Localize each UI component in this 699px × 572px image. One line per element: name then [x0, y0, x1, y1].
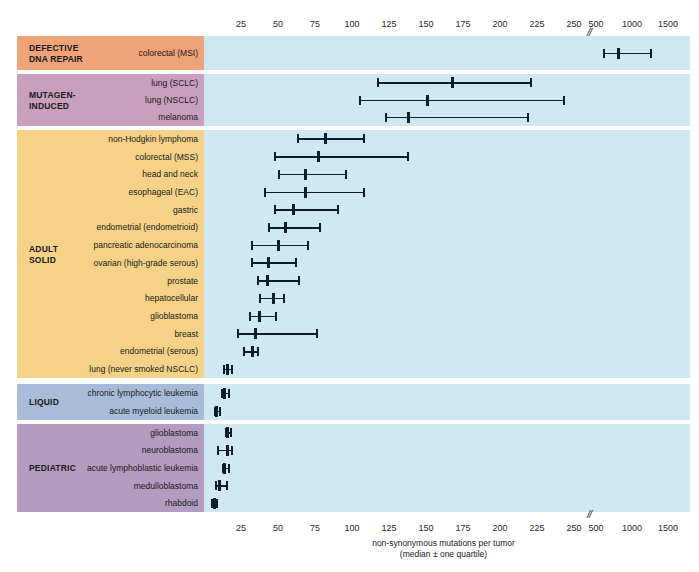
error-bar-cap-upper	[407, 152, 409, 161]
median-marker	[226, 445, 229, 456]
cancer-type-row: acute myeloid leukemia	[17, 403, 690, 419]
error-bar-cap-upper	[257, 347, 259, 356]
cancer-type-row: prostate	[17, 273, 690, 289]
error-bar-cap-lower	[385, 113, 387, 122]
cancer-type-row: medulloblastoma	[17, 478, 690, 494]
error-bar-marker	[204, 131, 690, 147]
axis-tick-150: 150	[418, 16, 433, 32]
cancer-type-label: gastric	[17, 202, 198, 218]
error-bar-marker	[204, 255, 690, 271]
error-bar-cap-lower	[268, 223, 270, 232]
error-bar-cap-upper	[337, 205, 339, 214]
cancer-type-row: breast	[17, 326, 690, 342]
axis-tick-175: 175	[455, 520, 470, 536]
cancer-type-label: acute lymphoblastic leukemia	[17, 460, 198, 476]
group-band: MUTAGEN- INDUCEDlung (SCLC)lung (NSCLC)m…	[17, 74, 690, 126]
axis-tick-1000: 1000	[622, 520, 642, 536]
error-bar-marker	[204, 361, 690, 377]
cancer-type-label: lung (SCLC)	[17, 75, 198, 91]
axis-tick-25: 25	[236, 16, 246, 32]
error-bar-cap-lower	[264, 188, 266, 197]
cancer-type-label: non-Hodgkin lymphoma	[17, 131, 198, 147]
axis-tick-225: 225	[529, 16, 544, 32]
cancer-type-label: acute myeloid leukemia	[17, 403, 198, 419]
median-marker	[267, 257, 270, 268]
median-marker	[617, 48, 620, 59]
cancer-type-row: glioblastoma	[17, 425, 690, 441]
median-marker	[407, 112, 410, 123]
error-bar-line	[251, 262, 295, 264]
error-bar-marker	[204, 75, 690, 91]
error-bar-marker	[204, 184, 690, 200]
group-band: ADULT SOLIDnon-Hodgkin lymphomacolorecta…	[17, 130, 690, 378]
cancer-type-label: endometrial (endometrioid)	[17, 219, 198, 235]
median-marker	[284, 222, 287, 233]
cancer-type-row: lung (never smoked NSCLC)	[17, 361, 690, 377]
median-marker	[426, 95, 429, 106]
error-bar-marker	[204, 149, 690, 165]
error-bar-cap-upper	[527, 113, 529, 122]
median-marker	[223, 463, 226, 474]
cancer-type-label: esophageal (EAC)	[17, 184, 198, 200]
median-marker	[317, 151, 320, 162]
error-bar-cap-upper	[230, 428, 232, 437]
error-bar-cap-upper	[319, 223, 321, 232]
error-bar-cap-upper	[231, 365, 233, 374]
error-bar-cap-lower	[278, 170, 280, 179]
cancer-type-label: prostate	[17, 273, 198, 289]
bottom-axis: 25507510012515017520022525050010001500	[204, 520, 683, 536]
error-bar-cap-upper	[530, 78, 532, 87]
error-bar-cap-upper	[316, 329, 318, 338]
axis-tick-225: 225	[529, 520, 544, 536]
median-marker	[324, 133, 327, 144]
cancer-type-row: acute lymphoblastic leukemia	[17, 460, 690, 476]
cancer-type-row: hepatocellular	[17, 290, 690, 306]
cancer-type-label: pancreatic adenocarcinoma	[17, 237, 198, 253]
median-marker	[213, 498, 216, 509]
error-bar-cap-upper	[298, 276, 300, 285]
cancer-type-label: medulloblastoma	[17, 478, 198, 494]
group-band: DEFECTIVE DNA REPAIRcolorectal (MSI)	[17, 36, 690, 70]
cancer-type-row: lung (NSCLC)	[17, 92, 690, 108]
error-bar-line	[359, 100, 563, 102]
axis-tick-500: 500	[588, 520, 603, 536]
cancer-type-label: endometrial (serous)	[17, 343, 198, 359]
median-marker	[251, 346, 254, 357]
cancer-type-row: non-Hodgkin lymphoma	[17, 131, 690, 147]
x-axis-caption-line2: (median ± one quartile)	[204, 549, 683, 560]
cancer-type-row: head and neck	[17, 166, 690, 182]
cancer-type-label: melanoma	[17, 109, 198, 125]
top-axis: 25507510012515017520022525050010001500	[204, 16, 683, 32]
cancer-type-label: head and neck	[17, 166, 198, 182]
error-bar-cap-lower	[215, 481, 217, 490]
error-bar-cap-lower	[603, 49, 605, 58]
median-marker	[218, 480, 221, 491]
error-bar-cap-upper	[226, 481, 228, 490]
error-bar-marker	[204, 45, 690, 61]
median-marker	[451, 77, 454, 88]
median-marker	[254, 328, 257, 339]
error-bar-cap-lower	[274, 205, 276, 214]
error-bar-marker	[204, 92, 690, 108]
axis-tick-150: 150	[418, 520, 433, 536]
error-bar-cap-lower	[251, 258, 253, 267]
cancer-type-label: breast	[17, 326, 198, 342]
cancer-type-label: chronic lymphocytic leukemia	[17, 385, 198, 401]
error-bar-marker	[204, 273, 690, 289]
error-bar-cap-upper	[563, 96, 565, 105]
error-bar-marker	[204, 166, 690, 182]
axis-tick-175: 175	[455, 16, 470, 32]
group-band: PEDIATRICglioblastomaneuroblastomaacute …	[17, 424, 690, 512]
error-bar-cap-upper	[650, 49, 652, 58]
axis-tick-50: 50	[273, 16, 283, 32]
mutation-burden-chart: 25507510012515017520022525050010001500 /…	[0, 0, 699, 572]
cancer-type-label: colorectal (MSI)	[17, 45, 198, 61]
error-bar-line	[268, 227, 319, 229]
error-bar-cap-upper	[307, 241, 309, 250]
axis-tick-100: 100	[344, 520, 359, 536]
cancer-type-row: melanoma	[17, 109, 690, 125]
median-marker	[215, 406, 218, 417]
error-bar-line	[297, 138, 363, 140]
error-bar-cap-lower	[251, 241, 253, 250]
median-marker	[277, 240, 280, 251]
